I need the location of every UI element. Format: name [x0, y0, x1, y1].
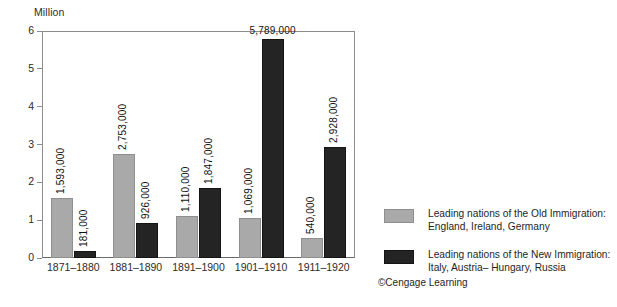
legend-label-line1: Leading nations of the New Immigration: [428, 249, 610, 262]
y-tick-label: 5 [4, 62, 34, 74]
bar-new-immigration [74, 251, 96, 258]
bar-group: 1,110,0001,847,000 [167, 31, 230, 258]
legend-label-line1: Leading nations of the Old Immigration: [428, 208, 606, 221]
bar-old-immigration [239, 218, 261, 258]
bar-new-immigration [199, 188, 221, 258]
bar-value-label: 1,847,000 [203, 138, 214, 184]
y-tick-label: 4 [4, 100, 34, 112]
bar-value-label: 181,000 [78, 210, 89, 248]
bar-value-label: 2,753,000 [117, 104, 128, 150]
legend-item: Leading nations of the Old Immigration:E… [384, 208, 614, 233]
bar-new-immigration [324, 147, 346, 258]
x-axis-labels: 1871–18801881–18901891–19001901–19101911… [42, 261, 355, 279]
bar-old-immigration [51, 198, 73, 258]
bar-value-label: 540,000 [305, 196, 316, 234]
y-axis-unit-label: Million [34, 6, 64, 18]
bar-group: 2,753,000926,000 [105, 31, 168, 258]
bar-value-label: 5,789,000 [249, 25, 295, 36]
y-tick-label: 3 [4, 138, 34, 150]
bar-old-immigration [176, 216, 198, 258]
bar-value-label: 1,110,000 [180, 166, 191, 212]
x-axis-tick-label: 1881–1890 [105, 261, 168, 273]
bar-group: 1,593,000181,000 [42, 31, 105, 258]
legend-item: Leading nations of the New Immigration:I… [384, 249, 614, 274]
legend-swatch-new [384, 250, 414, 264]
x-axis-tick-label: 1871–1880 [42, 261, 105, 273]
x-axis-tick-label: 1901–1910 [230, 261, 293, 273]
bar-new-immigration [262, 39, 284, 258]
bar-group: 1,069,0005,789,000 [230, 31, 293, 258]
copyright-credit: ©Cengage Learning [378, 277, 468, 288]
x-axis-tick-label: 1891–1900 [167, 261, 230, 273]
bar-group: 540,0002,928,000 [292, 31, 355, 258]
legend-label: Leading nations of the New Immigration:I… [428, 249, 610, 274]
x-axis-tick-label: 1911–1920 [292, 261, 355, 273]
bar-value-label: 926,000 [140, 181, 151, 219]
legend-label-line2: England, Ireland, Germany [428, 221, 606, 234]
bar-old-immigration [301, 238, 323, 258]
legend-label: Leading nations of the Old Immigration:E… [428, 208, 606, 233]
bar-value-label: 1,069,000 [243, 167, 254, 213]
bar-value-label: 2,928,000 [328, 97, 339, 143]
chart-figure: Million 0123456 1,593,000181,0002,753,00… [0, 0, 617, 307]
y-tick-label: 2 [4, 175, 34, 187]
bar-old-immigration [113, 154, 135, 258]
y-tick-label: 1 [4, 213, 34, 225]
legend-swatch-old [384, 209, 414, 223]
y-tick-label: 0 [4, 251, 34, 263]
bar-new-immigration [136, 223, 158, 258]
legend-label-line2: Italy, Austria– Hungary, Russia [428, 262, 610, 275]
y-tick-label: 6 [4, 24, 34, 36]
bar-value-label: 1,593,000 [55, 147, 66, 193]
bars-layer: 1,593,000181,0002,753,000926,0001,110,00… [42, 31, 355, 258]
